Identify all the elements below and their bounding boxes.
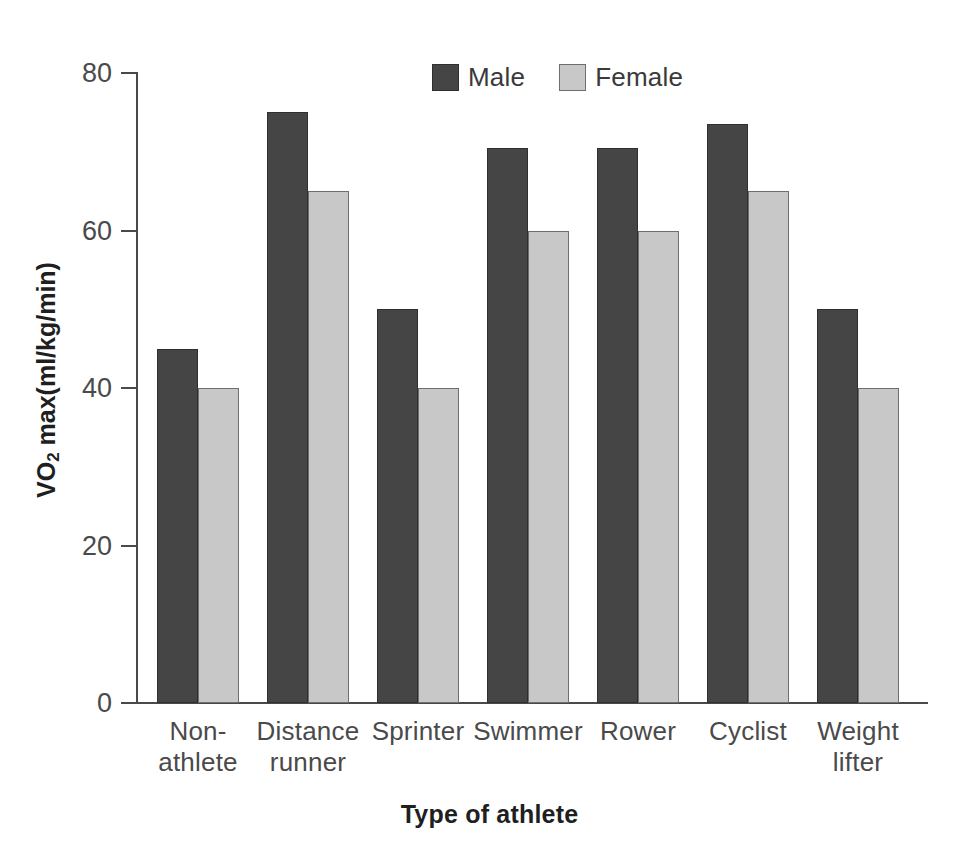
x-axis-label-line: runner: [228, 747, 388, 778]
bar-female-cyclist: [748, 191, 789, 703]
y-axis-tick-label: 20: [82, 532, 112, 559]
bar-male-cyclist: [707, 124, 748, 703]
bar-female-sprinter: [418, 388, 459, 703]
y-axis-tick-label: 80: [82, 60, 112, 87]
y-axis-tick-mark: [121, 702, 136, 704]
y-axis-title-rest: max(ml/kg/min): [32, 262, 60, 452]
bar-female-non-athlete: [198, 388, 239, 703]
bar-male-non-athlete: [157, 349, 198, 703]
y-axis-tick-mark: [121, 230, 136, 232]
y-axis-title-subscript: 2: [44, 452, 63, 461]
bar-male-weight-lifter: [817, 309, 858, 703]
plot-area: [136, 73, 928, 703]
x-axis-label-line: lifter: [778, 747, 938, 778]
x-axis-title: Type of athlete: [0, 800, 979, 829]
vo2max-bar-chart: Male Female 020406080 VO2 max(ml/kg/min)…: [0, 0, 979, 865]
x-axis-label-line: Weight: [778, 716, 938, 747]
y-axis-tick-label: 60: [82, 217, 112, 244]
bar-female-swimmer: [528, 231, 569, 704]
y-axis-title: VO2 max(ml/kg/min): [32, 130, 61, 630]
x-axis-label-weight-lifter: Weightlifter: [778, 716, 938, 777]
bar-female-weight-lifter: [858, 388, 899, 703]
y-axis-tick-label: 0: [97, 690, 112, 717]
bar-male-distance-runner: [267, 112, 308, 703]
y-axis-tick-label: 40: [82, 375, 112, 402]
bar-male-rower: [597, 148, 638, 703]
y-axis-tick-mark: [121, 545, 136, 547]
y-axis-tick-mark: [121, 387, 136, 389]
bar-male-sprinter: [377, 309, 418, 703]
bar-male-swimmer: [487, 148, 528, 703]
y-axis-title-main: VO: [32, 462, 60, 498]
y-axis-tick-mark: [121, 72, 136, 74]
bar-female-rower: [638, 231, 679, 704]
bar-female-distance-runner: [308, 191, 349, 703]
